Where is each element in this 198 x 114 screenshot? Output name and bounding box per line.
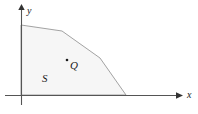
figure-container: y x S Q (0, 0, 198, 114)
x-axis-label: x (186, 89, 192, 100)
region-s-label: S (42, 72, 48, 84)
point-q-dot-icon (66, 59, 69, 62)
geometry-figure: y x S Q (0, 0, 198, 114)
x-axis-arrow-icon (176, 92, 183, 98)
y-axis-label: y (26, 5, 32, 16)
point-q-label: Q (70, 59, 78, 71)
y-axis-arrow-icon (18, 4, 24, 10)
